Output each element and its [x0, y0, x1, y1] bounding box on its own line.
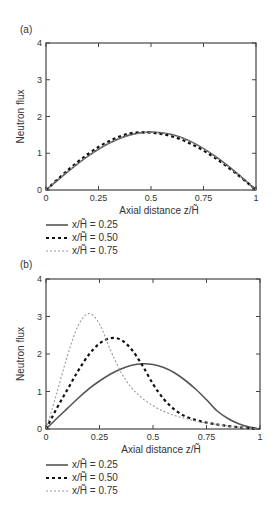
x-tick-label: 0 — [43, 432, 48, 442]
plot-b: 00.250.50.75101234Axial distance z/H̃Neu… — [15, 274, 263, 455]
y-tick-label: 2 — [37, 349, 42, 359]
dashed-line-icon — [46, 475, 68, 481]
x-axis-title: Axial distance z/H̃ — [119, 204, 198, 216]
plot-frame — [46, 279, 260, 429]
plot-frame — [46, 43, 256, 190]
x-tick-label: 0.75 — [198, 432, 216, 442]
x-tick-label: 0.5 — [145, 193, 158, 203]
x-tick-label: 1 — [253, 193, 258, 203]
x-tick-label: 0.25 — [91, 432, 109, 442]
y-tick-label: 0 — [37, 424, 42, 434]
y-tick-label: 3 — [37, 312, 42, 322]
legend-label: x/H̃ = 0.50 — [72, 472, 118, 483]
series-line — [46, 364, 260, 429]
y-tick-label: 3 — [37, 75, 42, 85]
plot-a: 00.250.50.75101234Axial distance z/H̃Neu… — [15, 38, 259, 216]
legend-label: x/H̃ = 0.50 — [72, 232, 118, 243]
legend-label: x/H̃ = 0.25 — [72, 219, 118, 230]
series-line — [46, 132, 256, 190]
x-axis-title: Axial distance z/H̃ — [121, 443, 200, 455]
legend-label: x/H̃ = 0.25 — [72, 459, 118, 470]
y-tick-label: 1 — [37, 387, 42, 397]
x-tick-label: 0.75 — [195, 193, 213, 203]
legend-b: x/H̃ = 0.25 x/H̃ = 0.50 x/H̃ = 0.75 — [46, 458, 118, 497]
legend-label: x/H̃ = 0.75 — [72, 245, 118, 256]
dotted-line-icon — [46, 488, 68, 494]
x-tick-label: 0.5 — [147, 432, 160, 442]
dashed-line-icon — [46, 235, 68, 241]
legend-item: x/H̃ = 0.25 — [46, 218, 118, 231]
y-tick-label: 0 — [37, 185, 42, 195]
solid-line-icon — [46, 222, 68, 228]
legend-item: x/H̃ = 0.75 — [46, 484, 118, 497]
chart-canvas: 00.250.50.75101234Axial distance z/H̃Neu… — [0, 0, 274, 518]
y-axis-title: Neutron flux — [15, 327, 26, 381]
legend-a: x/H̃ = 0.25 x/H̃ = 0.50 x/H̃ = 0.75 — [46, 218, 118, 257]
y-axis-title: Neutron flux — [15, 90, 26, 144]
x-tick-label: 0 — [43, 193, 48, 203]
solid-line-icon — [46, 462, 68, 468]
x-tick-label: 0.25 — [90, 193, 108, 203]
legend-item: x/H̃ = 0.75 — [46, 244, 118, 257]
dotted-line-icon — [46, 248, 68, 254]
legend-item: x/H̃ = 0.50 — [46, 231, 118, 244]
legend-item: x/H̃ = 0.25 — [46, 458, 118, 471]
y-tick-label: 4 — [37, 274, 42, 284]
y-tick-label: 4 — [37, 38, 42, 48]
y-tick-label: 2 — [37, 112, 42, 122]
legend-label: x/H̃ = 0.75 — [72, 485, 118, 496]
y-tick-label: 1 — [37, 148, 42, 158]
legend-item: x/H̃ = 0.50 — [46, 471, 118, 484]
x-tick-label: 1 — [257, 432, 262, 442]
series-line — [46, 338, 260, 429]
